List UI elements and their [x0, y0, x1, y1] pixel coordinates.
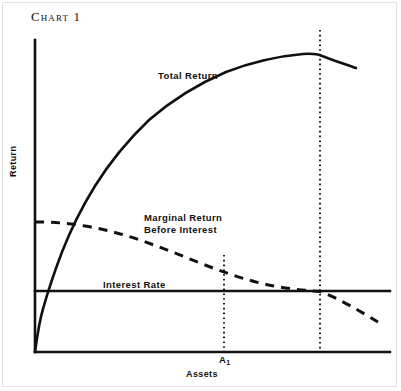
total-return-label: Total Return: [158, 70, 218, 81]
marginal-return-curve: [35, 222, 378, 322]
marginal-return-label-line2: Before Interest: [144, 224, 217, 235]
chart-figure: Chart 1 Return Assets Total Return Margi…: [0, 0, 401, 391]
interest-rate-label: Interest Rate: [103, 279, 166, 290]
marginal-return-label-line1: Marginal Return: [144, 212, 222, 223]
marginal-return-label: Marginal Return Before Interest: [144, 212, 222, 235]
a1-axis-label: A1: [219, 354, 231, 365]
plot-area: [0, 0, 401, 391]
y-axis-label: Return: [8, 146, 18, 177]
a1-subscript: 1: [226, 359, 230, 366]
total-return-curve: [35, 54, 356, 352]
x-axis-label: Assets: [186, 369, 218, 379]
